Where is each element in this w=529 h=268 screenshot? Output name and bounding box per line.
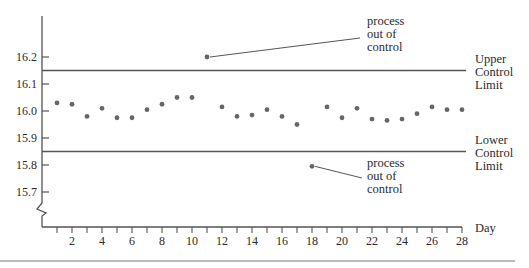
data-point bbox=[130, 115, 135, 120]
x-tick-label: 4 bbox=[99, 234, 105, 248]
annotation-lower-text: control bbox=[367, 182, 403, 196]
annotation-lower-text: process bbox=[367, 156, 405, 170]
x-tick-label: 18 bbox=[306, 234, 318, 248]
data-point bbox=[295, 122, 300, 127]
data-point bbox=[55, 101, 60, 106]
y-axis: 15.715.815.916.016.116.2 bbox=[16, 16, 49, 227]
data-point bbox=[310, 164, 315, 169]
lower-control-limit-label: Lower bbox=[475, 133, 508, 147]
upper-control-limit-label: Control bbox=[475, 65, 514, 79]
y-tick-label: 16.2 bbox=[16, 50, 37, 64]
x-tick-label: 24 bbox=[396, 234, 408, 248]
x-tick-label: 22 bbox=[366, 234, 378, 248]
control-chart: 15.715.815.916.016.116.2 246810121416182… bbox=[0, 0, 529, 268]
upper-control-limit-label: Limit bbox=[475, 78, 503, 92]
data-point bbox=[100, 106, 105, 111]
x-tick-label: 6 bbox=[129, 234, 135, 248]
y-tick-label: 16.1 bbox=[16, 77, 37, 91]
y-tick-label: 16.0 bbox=[16, 104, 37, 118]
x-tick-label: 14 bbox=[246, 234, 258, 248]
data-point bbox=[370, 117, 375, 122]
data-point bbox=[385, 118, 390, 123]
x-tick-label: 16 bbox=[276, 234, 288, 248]
x-tick-label: 2 bbox=[69, 234, 75, 248]
data-point bbox=[460, 107, 465, 112]
data-point bbox=[415, 111, 420, 116]
x-tick-label: 12 bbox=[216, 234, 228, 248]
lower-control-limit-label: Control bbox=[475, 146, 514, 160]
x-axis: 246810121416182022242628Day bbox=[42, 221, 497, 248]
data-point bbox=[175, 95, 180, 100]
callout-line-lower bbox=[315, 166, 362, 178]
x-tick-label: 28 bbox=[456, 234, 468, 248]
data-point bbox=[325, 105, 330, 110]
y-tick-label: 15.8 bbox=[16, 158, 37, 172]
data-point bbox=[340, 115, 345, 120]
annotations: processout ofcontrolprocessout ofcontrol bbox=[210, 14, 405, 196]
y-tick-label: 15.7 bbox=[16, 185, 37, 199]
x-tick-label: 20 bbox=[336, 234, 348, 248]
x-tick-label: 26 bbox=[426, 234, 438, 248]
x-tick-label: 8 bbox=[159, 234, 165, 248]
data-point bbox=[145, 107, 150, 112]
y-tick-label: 15.9 bbox=[16, 131, 37, 145]
data-point bbox=[220, 105, 225, 110]
annotation-upper-text: out of bbox=[367, 27, 397, 41]
lower-control-limit-label: Limit bbox=[475, 159, 503, 173]
data-point bbox=[70, 102, 75, 107]
data-point bbox=[115, 115, 120, 120]
data-point bbox=[280, 114, 285, 119]
data-point bbox=[400, 117, 405, 122]
data-point bbox=[265, 107, 270, 112]
data-point bbox=[205, 55, 210, 60]
annotation-upper-text: process bbox=[367, 14, 405, 28]
data-point bbox=[250, 113, 255, 118]
callout-line-upper bbox=[210, 38, 360, 57]
control-limit-lines: UpperControlLimitLowerControlLimit bbox=[42, 52, 514, 173]
annotation-upper-text: control bbox=[367, 40, 403, 54]
data-point bbox=[445, 107, 450, 112]
x-axis-title: Day bbox=[475, 221, 497, 235]
data-point bbox=[430, 105, 435, 110]
data-point bbox=[85, 114, 90, 119]
upper-control-limit-label: Upper bbox=[475, 52, 507, 66]
data-point bbox=[160, 102, 165, 107]
data-point bbox=[235, 114, 240, 119]
data-point bbox=[190, 95, 195, 100]
x-tick-label: 10 bbox=[186, 234, 198, 248]
annotation-lower-text: out of bbox=[367, 169, 397, 183]
data-point bbox=[355, 106, 360, 111]
y-axis-line-with-break bbox=[37, 16, 46, 227]
